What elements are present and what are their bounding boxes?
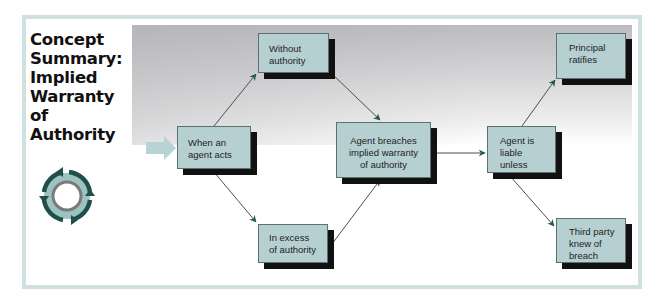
node-text: implied warranty bbox=[341, 147, 426, 159]
node-text: of authority bbox=[269, 244, 319, 256]
node-without-authority: Without authority bbox=[258, 33, 329, 73]
node-text: ratifies bbox=[569, 54, 617, 66]
node-text: unless bbox=[500, 159, 547, 171]
node-text: agent acts bbox=[188, 149, 242, 161]
node-text: of authority bbox=[341, 159, 426, 171]
node-text: Agent is bbox=[500, 135, 547, 147]
node-text: authority bbox=[269, 55, 320, 67]
node-third-party-knew: Third party knew of breach bbox=[556, 218, 626, 263]
node-text: Principal bbox=[569, 42, 617, 54]
node-when-agent-acts: When an agent acts bbox=[177, 126, 251, 169]
node-in-excess-of-authority: In excess of authority bbox=[258, 224, 328, 263]
node-text: Agent breaches bbox=[341, 135, 426, 147]
node-text: breach bbox=[569, 250, 617, 262]
node-text: When an bbox=[188, 137, 242, 149]
node-text: Third party bbox=[569, 226, 617, 238]
node-text: In excess bbox=[269, 232, 319, 244]
node-principal-ratifies: Principal ratifies bbox=[556, 33, 626, 79]
node-agent-is-liable-unless: Agent is liable unless bbox=[487, 126, 556, 173]
node-text: Without bbox=[269, 43, 320, 55]
node-text: knew of bbox=[569, 238, 617, 250]
node-text: liable bbox=[500, 147, 547, 159]
node-agent-breaches-warranty: Agent breaches implied warranty of autho… bbox=[336, 122, 431, 178]
